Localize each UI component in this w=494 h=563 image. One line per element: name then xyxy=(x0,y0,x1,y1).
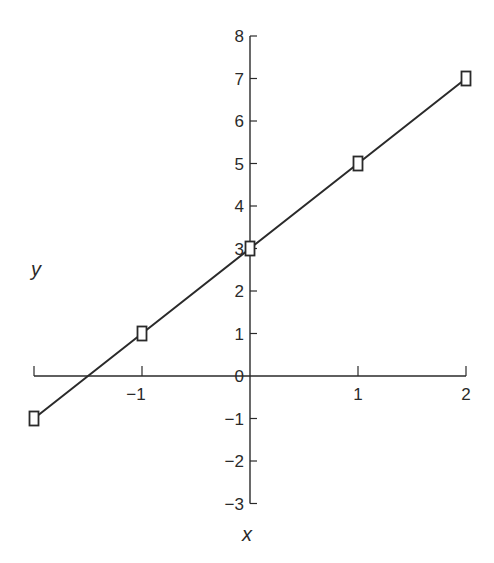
square-marker-icon xyxy=(462,72,471,86)
square-marker-icon xyxy=(354,157,363,171)
y-axis-title: y xyxy=(29,258,42,280)
y-tick-label: −1 xyxy=(225,410,244,429)
y-tick-label: 3 xyxy=(235,240,244,259)
line-chart: −3−2−1012345678−112 x y xyxy=(0,0,494,563)
y-tick-label: −2 xyxy=(225,452,244,471)
y-tick-label: 6 xyxy=(235,112,244,131)
square-marker-icon xyxy=(138,327,147,341)
x-axis-title: x xyxy=(241,523,253,545)
x-tick-label: 1 xyxy=(353,385,362,404)
y-tick-label: 5 xyxy=(235,155,244,174)
x-tick-label: −1 xyxy=(126,385,145,404)
y-tick-label: 2 xyxy=(235,282,244,301)
x-tick-label: 2 xyxy=(461,385,470,404)
y-tick-label: −3 xyxy=(225,495,244,514)
axes xyxy=(34,36,466,504)
square-marker-icon xyxy=(30,412,39,426)
y-tick-label: 1 xyxy=(235,325,244,344)
tick-labels: −3−2−1012345678−112 xyxy=(126,27,470,514)
y-tick-label: 7 xyxy=(235,70,244,89)
y-tick-label: 0 xyxy=(235,367,244,386)
square-marker-icon xyxy=(246,242,255,256)
y-tick-label: 4 xyxy=(235,197,244,216)
y-tick-label: 8 xyxy=(235,27,244,46)
